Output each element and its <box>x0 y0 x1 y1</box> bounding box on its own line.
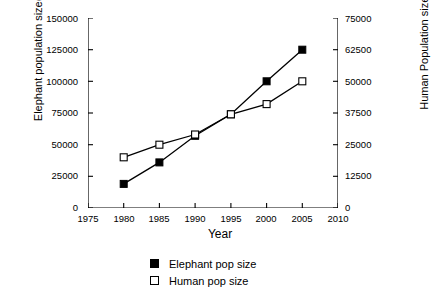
y-right-tick-25000: 25000 <box>345 139 371 150</box>
x-tick-2010: 2010 <box>318 213 358 224</box>
y-left-tick-150000: 150000 <box>16 13 78 24</box>
series-human-pop-size <box>120 78 306 161</box>
legend-item-human: Human pop size <box>150 272 256 289</box>
chart-legend: Elephant pop size Human pop size <box>150 255 256 289</box>
y-left-tick-100000: 100000 <box>16 76 78 87</box>
legend-label-human: Human pop size <box>169 275 249 287</box>
plot-area <box>88 18 338 208</box>
x-tick-2005: 2005 <box>282 213 322 224</box>
filled-square-icon <box>150 259 159 268</box>
series-elephant-pop-size <box>120 46 306 187</box>
y-left-tick-0: 0 <box>16 202 78 213</box>
y-right-tick-0: 0 <box>345 202 350 213</box>
chart-container: Elephant population size(n) Human Popula… <box>0 0 447 297</box>
legend-item-elephant: Elephant pop size <box>150 255 256 272</box>
y-left-tick-125000: 125000 <box>16 44 78 55</box>
y-right-tick-12500: 12500 <box>345 170 371 181</box>
x-tick-1995: 1995 <box>211 213 251 224</box>
y-right-tick-50000: 50000 <box>345 76 371 87</box>
y-left-tick-50000: 50000 <box>16 139 78 150</box>
x-tick-1975: 1975 <box>68 213 108 224</box>
y-left-tick-25000: 25000 <box>16 170 78 181</box>
y-right-tick-37500: 37500 <box>345 107 371 118</box>
x-tick-1990: 1990 <box>175 213 215 224</box>
x-tick-1980: 1980 <box>104 213 144 224</box>
legend-label-elephant: Elephant pop size <box>169 258 256 270</box>
y-right-tick-62500: 62500 <box>345 44 371 55</box>
y-right-tick-75000: 75000 <box>345 13 371 24</box>
x-tick-1985: 1985 <box>139 213 179 224</box>
open-square-icon <box>150 276 159 285</box>
y-axis-right-title: Human Population size(n) <box>418 0 431 122</box>
x-tick-2000: 2000 <box>246 213 286 224</box>
x-axis-title: Year <box>120 228 320 241</box>
y-left-tick-75000: 75000 <box>16 107 78 118</box>
